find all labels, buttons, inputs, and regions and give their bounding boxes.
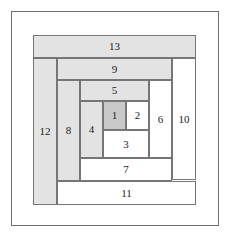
quilt-patch-2: 2 bbox=[126, 101, 149, 130]
quilt-patch-1: 1 bbox=[103, 101, 126, 130]
quilt-patch-12: 12 bbox=[33, 58, 57, 205]
log-cabin-block-figure: 12345678910111213 bbox=[0, 0, 231, 238]
quilt-patch-label: 2 bbox=[135, 110, 141, 121]
quilt-patch-6: 6 bbox=[149, 80, 172, 158]
quilt-patch-label: 7 bbox=[123, 164, 129, 175]
quilt-patch-label: 8 bbox=[66, 125, 72, 136]
quilt-patch-7: 7 bbox=[80, 158, 172, 181]
quilt-patch-13: 13 bbox=[33, 35, 196, 58]
quilt-patch-label: 6 bbox=[158, 114, 164, 125]
quilt-patch-label: 11 bbox=[121, 188, 132, 199]
quilt-patch-label: 9 bbox=[112, 64, 118, 75]
quilt-patch-5: 5 bbox=[80, 80, 149, 101]
quilt-patch-10: 10 bbox=[172, 58, 196, 180]
quilt-block-assembly: 12345678910111213 bbox=[0, 0, 231, 238]
quilt-patch-label: 12 bbox=[40, 126, 51, 137]
quilt-patch-11: 11 bbox=[57, 181, 196, 205]
quilt-patch-9: 9 bbox=[57, 58, 172, 80]
quilt-patch-label: 3 bbox=[123, 139, 129, 150]
quilt-patch-4: 4 bbox=[80, 101, 103, 158]
quilt-patch-label: 13 bbox=[109, 41, 120, 52]
quilt-patch-3: 3 bbox=[103, 130, 149, 158]
quilt-patch-label: 5 bbox=[112, 85, 118, 96]
quilt-patch-label: 4 bbox=[89, 124, 95, 135]
quilt-patch-8: 8 bbox=[57, 80, 80, 181]
quilt-patch-label: 1 bbox=[112, 110, 118, 121]
quilt-patch-label: 10 bbox=[179, 114, 190, 125]
